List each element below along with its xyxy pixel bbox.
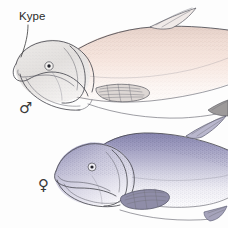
salmon-dimorphism-figure: Kype ♂ ♀ [0,0,228,228]
kype-label: Kype [19,10,46,22]
illustration-canvas: Kype ♂ ♀ [0,0,228,228]
male-eye [45,62,53,70]
female-eye [88,163,96,171]
male-sex-symbol: ♂ [19,99,32,117]
female-sex-symbol: ♀ [38,176,49,194]
